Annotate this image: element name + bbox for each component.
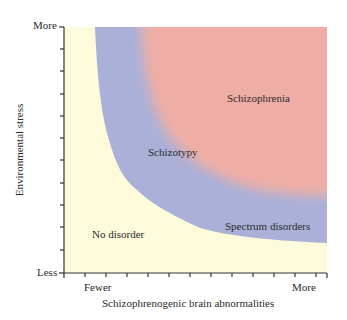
spectrum-disorders-label: Spectrum disorders — [225, 220, 310, 232]
y-axis-bottom-label: Less — [37, 266, 57, 278]
schizophrenia-label: Schizophrenia — [227, 92, 290, 104]
x-axis-title: Schizophrenogenic brain abnormalities — [102, 297, 274, 309]
x-axis-left-label: Fewer — [84, 281, 112, 293]
x-axis-right-label: More — [292, 281, 316, 293]
x-axis — [64, 273, 327, 278]
diagram: More Less Environmental stress Fewer Mor… — [0, 0, 347, 320]
no-disorder-label: No disorder — [92, 228, 144, 240]
y-axis-title: Environmental stress — [13, 104, 25, 197]
y-axis-top-label: More — [33, 19, 57, 31]
schizotypy-label: Schizotypy — [148, 146, 198, 158]
y-axis — [59, 27, 64, 273]
